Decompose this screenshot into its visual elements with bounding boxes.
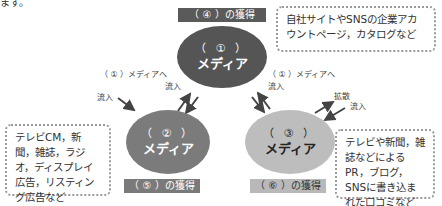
media-1-examples-note: 自社サイトやSNSの企業アカウントページ，カタログなど [276, 6, 436, 52]
media-3-examples-note: テレビや新聞，雑誌などによるPR，ブログ，SNSに書き込まれた口コミなど [335, 129, 435, 199]
right-inflow-label: 流入 [350, 102, 366, 112]
media-2-examples-note: テレビCM，新聞，雑誌，ラジオ，ディスプレイ広告，リスティング広告など [5, 124, 111, 196]
right-to-media1-inflow: 流入 [268, 82, 284, 92]
paid-media-acquire-label: （ ⑤ ）の獲得 [124, 179, 200, 193]
media-1-ellipse: （ ① ） メディア [177, 26, 267, 88]
owned-media-acquire-label: （ ④ ）の獲得 [178, 8, 266, 22]
right-to-media1-label: （ ① ）メディアへ [268, 70, 335, 80]
media-1-number: （ ① ） [195, 42, 249, 56]
media-3-title: メディア [265, 141, 316, 157]
media-2-ellipse: （ ② ） メディア [126, 110, 210, 174]
right-spread-label: 拡散 [334, 92, 350, 102]
left-to-media1-inflow: 流入 [165, 82, 181, 92]
earned-media-acquire-label: （ ⑥ ）の獲得 [250, 179, 326, 193]
media-3-number: （ ③ ） [263, 127, 317, 141]
media-1-title: メディア [197, 56, 248, 72]
media-2-number: （ ② ） [141, 127, 195, 141]
media-3-ellipse: （ ③ ） メディア [245, 110, 335, 174]
left-to-media1-label: （ ① ）メディアへ [100, 70, 167, 80]
left-inflow-label: 流入 [97, 93, 113, 103]
media-2-title: メディア [143, 141, 194, 157]
